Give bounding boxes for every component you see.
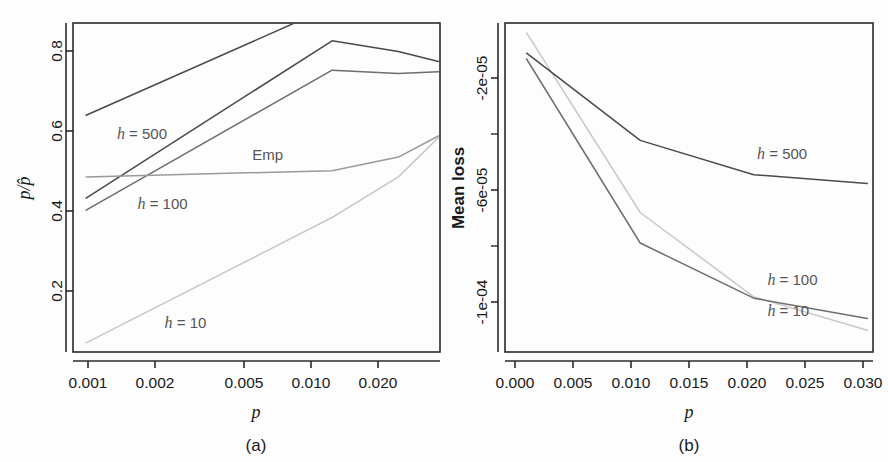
panel-b-ylabel: Mean loss — [449, 147, 468, 229]
panel-b-xticklabel-2: 0.010 — [612, 374, 651, 391]
panel-a-x-ticklabels: 0.001 0.002 0.005 0.010 0.020 — [69, 374, 398, 391]
panel-a-series-group — [86, 0, 438, 343]
panel-a-label-h500: h = 500 — [117, 125, 167, 142]
panel-a-x-ticks — [73, 361, 440, 368]
panel-a-yticklabel-3: 0.2 — [48, 280, 65, 302]
panel-b: -2e-05 -6e-05 -1e-04 Mean loss — [444, 0, 888, 462]
panel-a-label-h10: h = 10 — [165, 314, 207, 331]
panel-a-yticklabel-1: 0.6 — [48, 120, 65, 142]
panel-a-yticklabel-0: 0.8 — [48, 40, 65, 62]
panel-a-y-ticklabels: 0.8 0.6 0.4 0.2 — [48, 40, 65, 302]
panel-b-label-h500: h = 500 — [757, 145, 807, 162]
panel-b-xlabel: p — [683, 402, 694, 422]
panel-b-plot-box — [505, 23, 873, 352]
panel-a-yticklabel-2: 0.4 — [48, 200, 65, 222]
panel-a-xticklabel-1: 0.002 — [136, 374, 175, 391]
svg-text:p/p̂: p/p̂ — [14, 176, 34, 201]
panel-b-xticklabel-5: 0.025 — [786, 374, 825, 391]
panel-a-xticklabel-0: 0.001 — [69, 374, 108, 391]
panel-a-label-emp: Emp — [252, 146, 283, 163]
panel-a: 0.8 0.6 0.4 0.2 p/p̂ — [0, 0, 444, 462]
panel-b-yticklabel-1: -6e-05 — [473, 168, 490, 213]
figure-container: 0.8 0.6 0.4 0.2 p/p̂ — [0, 0, 888, 462]
panel-b-xticklabel-6: 0.030 — [844, 374, 883, 391]
panel-b-x-ticks — [505, 361, 873, 368]
panel-b-xticklabel-3: 0.015 — [670, 374, 709, 391]
panel-a-xticklabel-2: 0.005 — [225, 374, 264, 391]
panel-b-caption: (b) — [679, 436, 700, 455]
panel-b-x-ticklabels: 0.000 0.005 0.010 0.015 0.020 0.025 0.03… — [496, 374, 883, 391]
panel-a-plot: 0.8 0.6 0.4 0.2 p/p̂ — [0, 0, 444, 462]
svg-text:Mean loss: Mean loss — [449, 147, 468, 229]
panel-a-y-ticks — [66, 23, 73, 352]
panel-b-yticklabel-0: -2e-05 — [473, 56, 490, 101]
panel-b-y-ticklabels: -2e-05 -6e-05 -1e-04 — [473, 56, 490, 325]
panel-a-xticklabel-3: 0.010 — [292, 374, 331, 391]
panel-b-label-h10: h = 10 — [767, 302, 809, 319]
panel-a-caption: (a) — [246, 436, 267, 455]
panel-b-xticklabel-0: 0.000 — [496, 374, 535, 391]
panel-b-label-h100: h = 100 — [767, 271, 817, 288]
panel-b-y-ticks — [491, 23, 498, 352]
panel-b-plot: -2e-05 -6e-05 -1e-04 Mean loss — [444, 0, 888, 462]
panel-a-ylabel-num: p — [14, 191, 34, 202]
panel-a-series-h10 — [86, 138, 438, 343]
panel-b-xticklabel-4: 0.020 — [728, 374, 767, 391]
panel-a-series-h500 — [86, 0, 438, 115]
panel-b-xticklabel-1: 0.005 — [554, 374, 593, 391]
panel-a-xlabel: p — [250, 402, 261, 422]
panel-a-ylabel: p/p̂ — [14, 176, 34, 201]
panel-a-ylabel-den: p̂ — [14, 176, 34, 187]
panel-b-series-h500 — [527, 53, 868, 183]
panel-a-label-h100: h = 100 — [138, 195, 188, 212]
panel-b-yticklabel-2: -1e-04 — [473, 279, 490, 324]
panel-a-xticklabel-4: 0.020 — [359, 374, 398, 391]
panel-a-series-h100 — [86, 41, 438, 198]
